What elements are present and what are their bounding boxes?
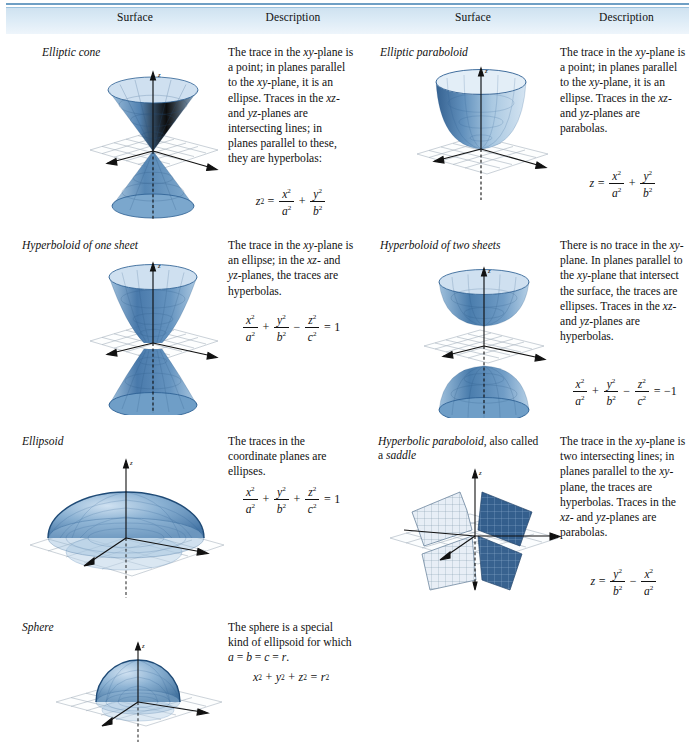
surface-name-elliptic-cone: Elliptic cone — [42, 45, 100, 59]
column-header-surface-2: Surface — [378, 11, 568, 23]
figure-hyperboloid-two-sheets: z — [408, 258, 558, 418]
figure-elliptic-paraboloid: z — [405, 58, 560, 203]
surface-name-saddle: saddle — [386, 449, 416, 461]
description-hyperboloid-one-sheet: The trace in the xy-plane is an ellipse;… — [228, 238, 355, 299]
figure-sphere: z — [50, 640, 230, 745]
column-header-description-1: Description — [228, 11, 358, 23]
surface-name-hyperbolic-paraboloid: Hyperbolic paraboloid, also called a sad… — [378, 434, 568, 462]
surface-name-elliptic-paraboloid: Elliptic paraboloid — [380, 45, 468, 59]
surface-name-hyperbolic-paraboloid-roman: , also called — [484, 435, 539, 447]
axis-label-z: z — [487, 267, 491, 274]
description-hyperboloid-two-sheets: There is no trace in the xy-plane. In pl… — [560, 238, 686, 344]
description-hyperbolic-paraboloid: The trace in the xy-plane is two interse… — [560, 434, 688, 540]
column-header-description-2: Description — [560, 11, 693, 23]
axis-label-z: z — [157, 262, 161, 269]
figure-hyperbolic-paraboloid: z — [382, 462, 567, 604]
axis-label-z: z — [141, 642, 145, 649]
equation-elliptic-cone: z2= x2a2 + y2b2 — [228, 185, 354, 218]
equation-hyperboloid-one-sheet: x2a2 + y2b2 − z2c2 =1 — [226, 311, 356, 344]
figure-hyperboloid-one-sheet: z — [78, 255, 228, 415]
equation-sphere: x2+ y2+ z2= r2 — [228, 670, 354, 685]
equation-elliptic-paraboloid: z= x2a2 + y2b2 — [560, 167, 686, 200]
surface-name-hyperbolic-paraboloid-italic: Hyperbolic paraboloid — [378, 435, 484, 447]
axis-label-z: z — [129, 459, 133, 466]
surface-name-hyperboloid-two-sheets: Hyperboloid of two sheets — [380, 238, 500, 252]
surface-name-hyperboloid-one-sheet: Hyperboloid of one sheet — [22, 238, 138, 252]
equation-hyperbolic-paraboloid: z= y2b2 − x2a2 — [560, 565, 688, 598]
surface-name-sphere: Sphere — [22, 620, 54, 634]
figure-elliptic-cone: z — [78, 58, 228, 223]
axis-label-z: z — [157, 71, 161, 78]
column-header-surface-1: Surface — [40, 11, 230, 23]
description-elliptic-cone: The trace in the xy-plane is a point; in… — [228, 45, 354, 167]
surface-name-hyperbolic-paraboloid-line2: a — [378, 449, 386, 461]
surface-name-ellipsoid: Ellipsoid — [22, 434, 64, 448]
axis-label-z: z — [478, 469, 482, 476]
equation-hyperboloid-two-sheets: x2a2 + y2b2 − z2c2 =−1 — [558, 375, 690, 408]
description-sphere: The sphere is a special kind of ellipsoi… — [228, 620, 354, 666]
equation-ellipsoid: x2a2 + y2b2 + z2c2 =1 — [226, 483, 356, 516]
description-ellipsoid: The traces in the coordinate planes are … — [228, 434, 354, 480]
header-top-rule — [6, 3, 689, 5]
figure-ellipsoid: z — [24, 450, 229, 600]
description-elliptic-paraboloid: The trace in the xy-plane is a point; in… — [560, 45, 686, 136]
axis-label-z: z — [484, 67, 488, 74]
